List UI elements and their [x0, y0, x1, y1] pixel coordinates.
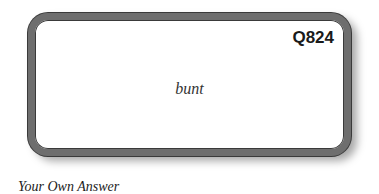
answer-blank-line[interactable]: [120, 182, 366, 194]
question-id: Q824: [292, 28, 334, 48]
card-term: bunt: [35, 80, 344, 98]
answer-row: Your Own Answer: [18, 179, 366, 194]
answer-label: Your Own Answer: [18, 179, 119, 194]
flashcard: Q824 bunt: [28, 13, 351, 156]
